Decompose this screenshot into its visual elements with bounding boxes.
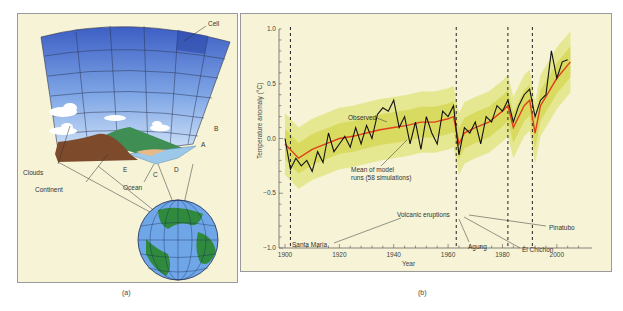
label-b: B xyxy=(214,125,218,132)
svg-text:1.0: 1.0 xyxy=(267,25,276,32)
globe xyxy=(138,200,218,280)
annotation-observed: Observed xyxy=(348,114,377,121)
annotation-pinatubo: Pinatubo xyxy=(549,224,575,231)
panel-b-temperature-chart: 1.00.50.0−0.5−1.019001920194019601980200… xyxy=(240,13,612,272)
svg-text:−1.0: −1.0 xyxy=(263,244,276,251)
label-c: C xyxy=(153,171,158,178)
svg-text:1920: 1920 xyxy=(332,251,347,258)
annotation-mean-line2: runs (58 simulations) xyxy=(351,174,411,182)
label-continent: Continent xyxy=(35,186,63,193)
caption-a: (a) xyxy=(122,289,131,296)
svg-text:0.5: 0.5 xyxy=(267,80,276,87)
simulation-ensemble-band xyxy=(285,31,570,189)
y-axis-label: Temperature anomaly (°C) xyxy=(256,83,264,159)
annotation-mean-line1: Mean of model xyxy=(351,166,395,173)
svg-text:1980: 1980 xyxy=(495,251,510,258)
annotation-volcanic: Volcanic eruptions xyxy=(397,211,451,219)
climate-model-illustration: Cell B A Clouds Continent E C D Ocean xyxy=(18,14,239,284)
label-cell: Cell xyxy=(208,20,220,27)
temperature-anomaly-chart: 1.00.50.0−0.5−1.019001920194019601980200… xyxy=(241,14,613,273)
svg-text:1900: 1900 xyxy=(278,251,293,258)
label-ocean: Ocean xyxy=(123,184,143,191)
svg-text:−0.5: −0.5 xyxy=(263,189,276,196)
annotation-agung: Agung xyxy=(468,243,487,251)
label-clouds: Clouds xyxy=(23,169,44,176)
label-e: E xyxy=(123,166,128,173)
caption-b: (b) xyxy=(418,289,427,296)
annotation-el-chichon: El Chichon xyxy=(522,246,554,253)
annotation-santa-maria: Santa Maria xyxy=(292,241,327,248)
cell-highlight xyxy=(176,30,208,54)
svg-text:1960: 1960 xyxy=(441,251,456,258)
x-axis-label: Year xyxy=(402,260,416,267)
label-d: D xyxy=(174,166,179,173)
panel-a-climate-model-diagram: Cell B A Clouds Continent E C D Ocean xyxy=(17,13,238,283)
svg-text:1940: 1940 xyxy=(386,251,401,258)
svg-text:0.0: 0.0 xyxy=(267,135,276,142)
label-a: A xyxy=(201,141,206,148)
